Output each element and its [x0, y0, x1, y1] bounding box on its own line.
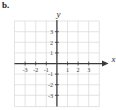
x-tick-label-pos2: 2 [77, 66, 80, 73]
coordinate-plane-svg: -3 -2 -1 1 2 3 3 2 1 -1 -2 -3 x [14, 20, 116, 110]
x-tick-label-pos3: 3 [87, 66, 90, 73]
x-axis-arrowhead [102, 60, 109, 66]
x-tick-label-pos1: 1 [66, 66, 69, 73]
y-tick-label-neg1: -1 [48, 70, 53, 77]
y-tick-label-pos1: 1 [50, 49, 53, 56]
y-tick-label-pos3: 3 [50, 28, 53, 35]
y-axis-label: y [56, 9, 61, 19]
y-tick-label-neg3: -3 [48, 92, 53, 99]
x-axis-label: x [111, 54, 116, 64]
x-tick-label-neg3: -3 [23, 66, 28, 73]
x-tick-label-neg2: -2 [33, 66, 38, 73]
figure-part-label: b. [2, 0, 9, 10]
coordinate-plane-figure: b. [0, 0, 116, 110]
y-tick-label-pos2: 2 [50, 39, 53, 46]
y-tick-label-neg2: -2 [48, 81, 53, 88]
x-axis [15, 60, 109, 66]
coordinate-plane-plot: -3 -2 -1 1 2 3 3 2 1 -1 -2 -3 x [14, 20, 100, 105]
y-axis-label-layer: y [14, 6, 74, 22]
